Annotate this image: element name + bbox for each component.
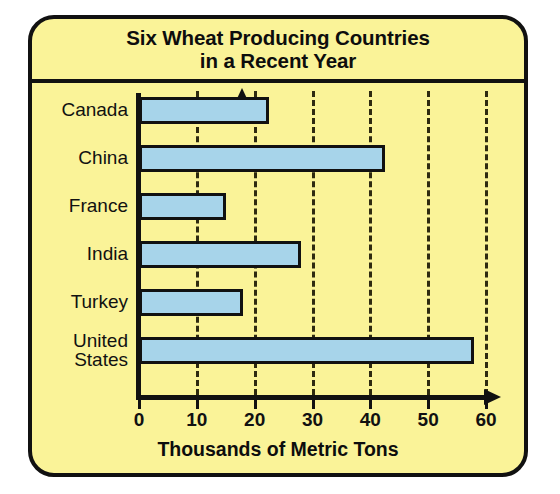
x-axis-tick xyxy=(254,400,257,409)
bar xyxy=(139,289,243,316)
x-axis-caption: Thousands of Metric Tons xyxy=(32,438,524,461)
bar xyxy=(139,145,385,172)
x-axis-line xyxy=(136,395,488,400)
x-axis-tick-label: 50 xyxy=(418,409,439,431)
x-axis-tick-label: 10 xyxy=(186,409,207,431)
x-axis-tick xyxy=(312,400,315,409)
title-line-2: in a Recent Year xyxy=(126,49,430,72)
bar xyxy=(139,241,301,268)
x-axis-tick-label: 30 xyxy=(302,409,323,431)
category-label: India xyxy=(87,244,128,263)
x-axis-tick-label: 20 xyxy=(244,409,265,431)
category-label: France xyxy=(69,196,128,215)
plot-area: 0102030405060 CanadaChinaFranceIndiaTurk… xyxy=(32,83,524,473)
chart-figure: Six Wheat Producing Countries in a Recen… xyxy=(28,15,528,477)
category-label: China xyxy=(78,148,128,167)
gridline xyxy=(485,91,488,395)
x-axis-tick xyxy=(427,400,430,409)
bar xyxy=(139,337,474,364)
x-axis-tick-label: 40 xyxy=(360,409,381,431)
category-label: Canada xyxy=(61,100,128,119)
category-label: United States xyxy=(73,331,128,370)
x-axis-tick xyxy=(138,400,141,409)
x-axis-tick-label: 60 xyxy=(475,409,496,431)
x-axis-arrow-icon xyxy=(484,389,501,405)
x-axis-tick xyxy=(369,400,372,409)
chart-title-block: Six Wheat Producing Countries in a Recen… xyxy=(32,19,524,83)
bar xyxy=(139,97,269,124)
page-title: Six Wheat Producing Countries in a Recen… xyxy=(126,26,430,72)
title-line-1: Six Wheat Producing Countries xyxy=(126,26,430,49)
x-axis-tick-label: 0 xyxy=(134,409,145,431)
x-axis-tick xyxy=(196,400,199,409)
category-label: Turkey xyxy=(71,292,128,311)
bar xyxy=(139,193,226,220)
